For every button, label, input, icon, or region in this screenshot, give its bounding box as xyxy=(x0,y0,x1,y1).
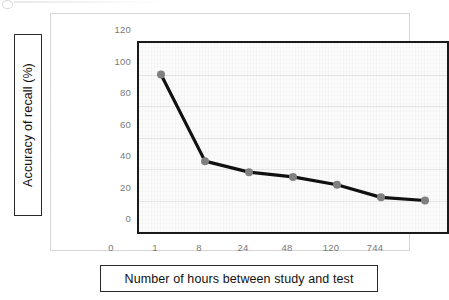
x-tick-label: 744 xyxy=(355,242,395,253)
x-tick-label: 24 xyxy=(223,242,263,253)
y-tick-label: 100 xyxy=(101,57,131,67)
y-tick-label: 80 xyxy=(101,88,131,98)
y-axis-title-box: Accuracy of recall (%) xyxy=(14,34,42,216)
x-tick-label: 1 xyxy=(135,242,175,253)
y-tick-label: 120 xyxy=(101,25,131,35)
chart-container: 020406080100120 0: 100%1: 45%8: 38%24: 3… xyxy=(50,13,410,251)
data-point-marker: 48: 30% xyxy=(333,181,341,189)
y-axis-title: Accuracy of recall (%) xyxy=(21,63,35,187)
data-point-marker: 120: 22% xyxy=(377,193,385,201)
x-tick-label: 120 xyxy=(311,242,351,253)
y-tick-label: 60 xyxy=(101,120,131,130)
scan-artifact-icon xyxy=(2,0,13,9)
x-axis-title: Number of hours between study and test xyxy=(125,272,354,286)
plot-area: 0: 100%1: 45%8: 38%24: 35%48: 30%120: 22… xyxy=(137,41,449,234)
data-point-marker: 0: 100% xyxy=(157,71,165,79)
y-tick-label: 0 xyxy=(101,214,131,224)
scan-artifact-line xyxy=(14,1,164,3)
x-axis-title-box: Number of hours between study and test xyxy=(100,265,378,292)
y-tick-label: 20 xyxy=(101,183,131,193)
data-series-line: 0: 100%1: 45%8: 38%24: 35%48: 30%120: 22… xyxy=(139,43,447,232)
data-point-marker: 1: 45% xyxy=(201,157,209,165)
y-tick-label: 40 xyxy=(101,151,131,161)
x-tick-label: 8 xyxy=(179,242,219,253)
x-tick-label: 48 xyxy=(267,242,307,253)
series-polyline xyxy=(161,75,425,201)
data-point-marker: 744: 20% xyxy=(421,197,429,205)
data-point-marker: 24: 35% xyxy=(289,173,297,181)
x-tick-label: 0 xyxy=(91,242,131,253)
y-axis-tick-labels: 020406080100120 xyxy=(99,14,131,252)
data-point-marker: 8: 38% xyxy=(245,168,253,176)
